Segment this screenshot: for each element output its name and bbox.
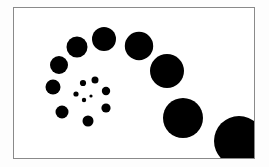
spiral-dot <box>46 80 61 95</box>
spiral-dot <box>92 77 99 84</box>
spiral-dot <box>73 91 78 96</box>
spiral-dot <box>50 56 68 74</box>
figure-frame <box>13 7 255 159</box>
spiral-dot <box>150 54 184 88</box>
spiral-dot <box>101 103 110 112</box>
spiral-dot <box>89 94 92 97</box>
spiral-dot <box>67 37 88 58</box>
spiral-dot <box>83 116 94 127</box>
spiral-dot <box>56 106 69 119</box>
spiral-dot <box>102 87 110 95</box>
spiral-dot <box>82 98 86 102</box>
spiral-dot <box>80 80 86 86</box>
dot-spiral-graphic <box>14 8 255 159</box>
figure-canvas <box>0 0 269 167</box>
spiral-dot <box>214 116 255 159</box>
spiral-dot <box>163 98 203 138</box>
spiral-dot <box>125 32 153 60</box>
spiral-dot <box>92 27 116 51</box>
